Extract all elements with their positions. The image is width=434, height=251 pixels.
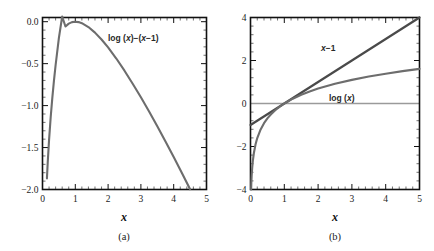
y-tick-label: 0 bbox=[242, 99, 247, 109]
y-tick-label: −4 bbox=[236, 185, 246, 195]
x-axis-title-a: x bbox=[120, 210, 127, 224]
axis-tickmarks-a bbox=[43, 18, 207, 190]
curve-label-x-minus-1: x−1 bbox=[320, 43, 336, 53]
x-tick-label: 0 bbox=[248, 194, 253, 204]
chart-panel-a: 0.0−0.5−1.0−1.5−2.0 012345 log (x)−(x−1)… bbox=[0, 0, 217, 251]
x-tick-label: 3 bbox=[350, 194, 355, 204]
y-tick-label: −1.0 bbox=[21, 101, 38, 111]
y-tick-label: −2 bbox=[236, 142, 246, 152]
x-axis-tick-labels-b: 012345 bbox=[248, 194, 422, 204]
y-tick-label: −2.0 bbox=[21, 185, 38, 195]
curve-label-a: log (x)−(x−1) bbox=[108, 33, 159, 43]
figure-container: 0.0−0.5−1.0−1.5−2.0 012345 log (x)−(x−1)… bbox=[0, 0, 434, 251]
y-tick-label: 0.0 bbox=[27, 17, 39, 27]
y-tick-label: 4 bbox=[242, 13, 247, 23]
plot-a-svg: 0.0−0.5−1.0−1.5−2.0 012345 log (x)−(x−1)… bbox=[0, 0, 217, 251]
x-axis-title-b: x bbox=[331, 210, 338, 224]
plot-b-svg: 420−2−4 012345 x−1 log (x) x (b) bbox=[217, 0, 434, 251]
subcaption-b: (b) bbox=[329, 231, 342, 243]
chart-panel-b: 420−2−4 012345 x−1 log (x) x (b) bbox=[217, 0, 434, 251]
plot-frame-a bbox=[43, 18, 207, 190]
x-tick-label: 1 bbox=[73, 194, 78, 204]
y-axis-tick-labels-a: 0.0−0.5−1.0−1.5−2.0 bbox=[21, 17, 38, 195]
subcaption-a: (a) bbox=[118, 231, 130, 243]
x-tick-label: 1 bbox=[282, 194, 287, 204]
x-tick-label: 4 bbox=[171, 194, 176, 204]
curve-label-log-x: log (x) bbox=[329, 93, 355, 103]
x-tick-label: 5 bbox=[204, 194, 209, 204]
x-tick-label: 3 bbox=[139, 194, 144, 204]
y-tick-label: −0.5 bbox=[21, 59, 38, 69]
x-tick-label: 5 bbox=[417, 194, 422, 204]
x-tick-label: 4 bbox=[383, 194, 388, 204]
y-axis-tick-labels-b: 420−2−4 bbox=[236, 13, 246, 195]
curve-log-x bbox=[251, 69, 419, 190]
y-tick-label: 2 bbox=[242, 56, 247, 66]
x-tick-label: 2 bbox=[106, 194, 111, 204]
x-tick-label: 2 bbox=[316, 194, 321, 204]
x-axis-tick-labels-a: 012345 bbox=[40, 194, 209, 204]
x-tick-label: 0 bbox=[40, 194, 45, 204]
y-tick-label: −1.5 bbox=[21, 143, 38, 153]
